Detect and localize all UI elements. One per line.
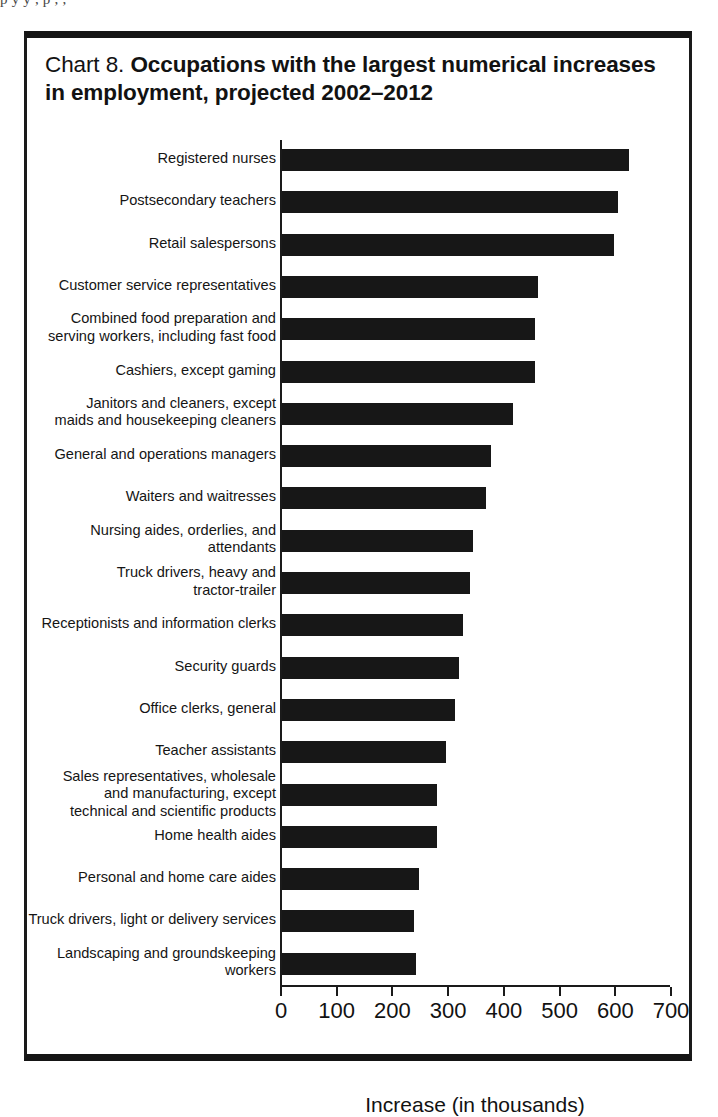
bar: [282, 191, 618, 213]
bar: [282, 318, 535, 340]
axis-tick: [280, 987, 282, 996]
bar: [282, 868, 419, 890]
bar: [282, 741, 446, 763]
bar-category-label: Office clerks, general: [16, 690, 276, 718]
axis-tick: [614, 987, 616, 996]
bar-category-label: Registered nurses: [16, 140, 276, 168]
bar-row: Personal and home care aides: [280, 859, 670, 900]
chart-title-main: Occupations with the largest numerical i…: [45, 52, 656, 105]
bar-category-label: Combined food preparation and serving wo…: [16, 309, 276, 345]
axis-tick-label: 700: [636, 998, 706, 1024]
bar-row: Postsecondary teachers: [280, 182, 670, 223]
bar-category-label: Sales representatives, wholesale and man…: [16, 768, 276, 821]
bar-row: Teacher assistants: [280, 732, 670, 773]
bar-chart: Registered nursesPostsecondary teachersR…: [280, 140, 670, 1008]
bar-row: Sales representatives, wholesale and man…: [280, 775, 670, 816]
bar-row: Waiters and waitresses: [280, 478, 670, 519]
bar-row: Truck drivers, heavy and tractor-trailer: [280, 563, 670, 604]
page-text-fragment: p y y , p , ,: [0, 0, 718, 7]
bar-row: Cashiers, except gaming: [280, 352, 670, 393]
axis-tick: [559, 987, 561, 996]
bar-row: Janitors and cleaners, except maids and …: [280, 394, 670, 435]
bar-category-label: Landscaping and groundskeeping workers: [16, 944, 276, 980]
chart-figure-frame: Chart 8. Occupations with the largest nu…: [24, 31, 692, 1061]
bar: [282, 445, 491, 467]
axis-tick: [336, 987, 338, 996]
bar: [282, 403, 513, 425]
bar-category-label: Waiters and waitresses: [16, 478, 276, 506]
x-axis-title: Increase (in thousands): [280, 1093, 670, 1117]
bar-row: Nursing aides, orderlies, and attendants: [280, 521, 670, 562]
chart-plot-area: Registered nursesPostsecondary teachersR…: [27, 118, 689, 1058]
bar-row: Retail salespersons: [280, 225, 670, 266]
chart-title-prefix: Chart 8.: [45, 52, 124, 77]
bar-category-label: Home health aides: [16, 817, 276, 845]
bar-row: Registered nurses: [280, 140, 670, 181]
bar-row: General and operations managers: [280, 436, 670, 477]
chart-title: Chart 8. Occupations with the largest nu…: [45, 51, 665, 107]
axis-tick: [670, 987, 672, 996]
bar-category-label: Truck drivers, heavy and tractor-trailer: [16, 563, 276, 599]
bar-row: Landscaping and groundskeeping workers: [280, 944, 670, 985]
bar: [282, 572, 470, 594]
bar-category-label: Truck drivers, light or delivery service…: [16, 901, 276, 929]
bar-category-label: Personal and home care aides: [16, 859, 276, 887]
bar-category-label: Security guards: [16, 648, 276, 676]
axis-tick: [503, 987, 505, 996]
bar-category-label: Retail salespersons: [16, 225, 276, 253]
bar: [282, 361, 535, 383]
bar-row: Home health aides: [280, 817, 670, 858]
bar: [282, 657, 459, 679]
bar: [282, 530, 473, 552]
bar-row: Office clerks, general: [280, 690, 670, 731]
bar: [282, 826, 437, 848]
bar: [282, 487, 486, 509]
bar-row: Truck drivers, light or delivery service…: [280, 901, 670, 942]
bar-category-label: Nursing aides, orderlies, and attendants: [16, 521, 276, 557]
bar: [282, 910, 414, 932]
bar-category-label: Janitors and cleaners, except maids and …: [16, 394, 276, 430]
bar-row: Customer service representatives: [280, 267, 670, 308]
bar-row: Security guards: [280, 648, 670, 689]
axis-tick: [447, 987, 449, 996]
bar-category-label: General and operations managers: [16, 436, 276, 464]
bar-category-label: Customer service representatives: [16, 267, 276, 295]
bar-row: Receptionists and information clerks: [280, 605, 670, 646]
bar-category-label: Postsecondary teachers: [16, 182, 276, 210]
bar-category-label: Receptionists and information clerks: [16, 605, 276, 633]
bar-row: Combined food preparation and serving wo…: [280, 309, 670, 350]
bar: [282, 699, 455, 721]
bar: [282, 614, 463, 636]
bar-category-label: Cashiers, except gaming: [16, 352, 276, 380]
bar: [282, 276, 538, 298]
bar: [282, 149, 629, 171]
bar-rows: Registered nursesPostsecondary teachersR…: [280, 140, 670, 986]
bar: [282, 784, 437, 806]
bar: [282, 234, 614, 256]
bar: [282, 953, 416, 975]
axis-tick: [391, 987, 393, 996]
bar-category-label: Teacher assistants: [16, 732, 276, 760]
